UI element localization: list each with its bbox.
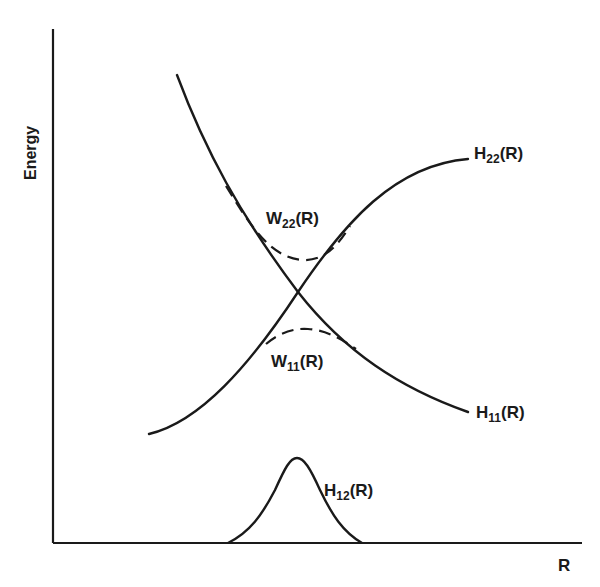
label-h11: H11(R) xyxy=(476,404,525,421)
label-h12-symbol: H xyxy=(324,481,336,500)
label-w22-symbol: W xyxy=(266,209,282,228)
label-h22-subscript: 22 xyxy=(486,152,499,166)
potential-energy-diagram xyxy=(0,0,600,587)
label-w22-subscript: 22 xyxy=(282,217,295,231)
label-w22-argument: (R) xyxy=(295,209,319,228)
label-h12-argument: (R) xyxy=(350,481,374,500)
label-w22: W22(R) xyxy=(266,210,319,227)
label-h11-subscript: 11 xyxy=(488,411,501,425)
label-w11: W11(R) xyxy=(271,353,323,370)
label-w11-argument: (R) xyxy=(300,352,324,371)
label-h22-symbol: H xyxy=(474,144,486,163)
label-w11-symbol: W xyxy=(271,352,287,371)
label-h11-argument: (R) xyxy=(501,403,525,422)
label-h12: H12(R) xyxy=(324,482,373,499)
label-h11-symbol: H xyxy=(476,403,488,422)
label-h22: H22(R) xyxy=(474,145,523,162)
label-w11-subscript: 11 xyxy=(287,360,300,374)
label-h22-argument: (R) xyxy=(500,144,524,163)
y-axis-title: Energy xyxy=(22,126,40,180)
label-h12-subscript: 12 xyxy=(336,489,349,503)
x-axis-title: R xyxy=(558,556,570,576)
